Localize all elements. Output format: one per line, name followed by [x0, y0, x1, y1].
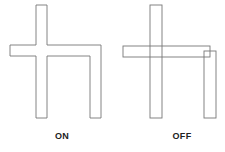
off-right-leg: [204, 51, 216, 118]
off-horizontal-bar: [123, 46, 210, 57]
on-shape-outline: [10, 5, 101, 118]
off-label: OFF: [173, 131, 192, 141]
off-vertical-bar: [150, 5, 162, 118]
diagram-canvas: [0, 0, 225, 152]
on-label: ON: [55, 131, 69, 141]
